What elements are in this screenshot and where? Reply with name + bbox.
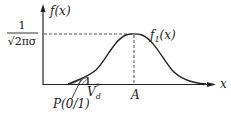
y-axis-label: f(x)	[49, 4, 71, 18]
x-axis-arrow-icon	[207, 82, 216, 87]
y-axis	[41, 4, 46, 85]
curve-label: f1(x)	[149, 28, 176, 44]
peak-numerator: 1	[19, 19, 26, 32]
mean-label: A	[130, 88, 140, 102]
peak-denominator: √2πσ	[8, 35, 37, 48]
y-axis-arrow-icon	[41, 4, 46, 12]
normal-distribution-diagram: f(x) x 1 √2πσ f1(x) A Vd* P(0/1)	[0, 0, 231, 120]
peak-value-label: 1 √2πσ	[7, 19, 38, 48]
x-axis-label: x	[220, 77, 227, 91]
bell-curve	[68, 34, 206, 84]
x-axis	[43, 82, 216, 87]
shaded-area-label: P(0/1)	[52, 97, 90, 111]
